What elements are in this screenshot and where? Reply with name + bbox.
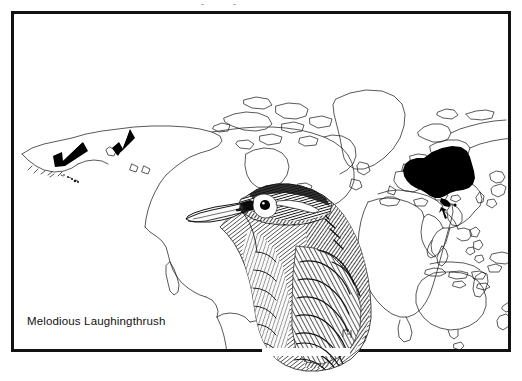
scan-speck <box>233 4 236 5</box>
range-dot-hainan <box>453 203 456 206</box>
coastlines <box>22 90 508 349</box>
field-guide-plate: Melodious Laughingthrush <box>0 0 522 381</box>
range-blob-southern-china <box>403 146 475 198</box>
arrow-hawaii <box>53 142 88 167</box>
hawaii-islands <box>63 174 79 183</box>
arrow-southern-china <box>439 207 447 219</box>
world-map <box>14 14 508 349</box>
arrow-california <box>112 129 135 156</box>
scan-speck <box>201 4 204 5</box>
plate-caption: Melodious Laughingthrush <box>27 315 166 327</box>
world-map-svg <box>14 14 508 349</box>
frame-break-mask <box>262 348 350 356</box>
